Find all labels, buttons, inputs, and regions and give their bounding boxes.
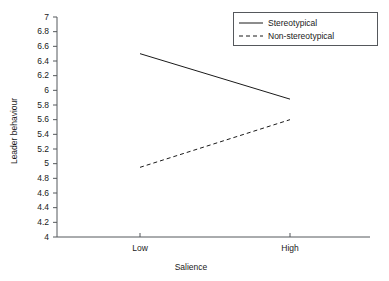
y-tick-label: 4.6 (0, 189, 49, 198)
tick-marks (53, 17, 290, 237)
y-tick-label: 6.2 (0, 71, 49, 80)
y-tick-label: 4.2 (0, 218, 49, 227)
x-axis-title: Salience (56, 262, 326, 272)
legend-label-non-stereotypical: Non-stereotypical (265, 31, 334, 41)
legend-item-non-stereotypical: Non-stereotypical (237, 29, 373, 42)
series-line-stereotypical (140, 54, 290, 99)
legend: Stereotypical Non-stereotypical (233, 12, 378, 46)
y-tick-label: 6.4 (0, 57, 49, 66)
y-tick-label: 5.2 (0, 145, 49, 154)
y-tick-label: 5 (0, 159, 49, 168)
y-axis-title: Leader behaviour (9, 76, 19, 186)
legend-dashed-line-icon (237, 31, 265, 41)
y-tick-label: 5.8 (0, 101, 49, 110)
line-chart: 76.86.66.46.265.85.65.45.254.84.64.44.24… (0, 0, 389, 281)
y-tick-label: 6 (0, 86, 49, 95)
x-tick-label: Low (100, 244, 180, 253)
series-line-non-stereotypical (140, 120, 290, 168)
y-tick-label: 4.4 (0, 203, 49, 212)
y-tick-label: 7 (0, 13, 49, 22)
axis-lines (57, 17, 370, 237)
legend-solid-line-icon (237, 18, 265, 28)
legend-label-stereotypical: Stereotypical (265, 18, 317, 28)
y-tick-label: 5.4 (0, 130, 49, 139)
data-series (140, 54, 290, 168)
y-tick-label: 6.6 (0, 42, 49, 51)
y-tick-label: 6.8 (0, 27, 49, 36)
y-tick-label: 4.8 (0, 174, 49, 183)
x-tick-label: High (250, 244, 330, 253)
legend-item-stereotypical: Stereotypical (237, 16, 373, 29)
y-tick-label: 5.6 (0, 115, 49, 124)
y-tick-label: 4 (0, 233, 49, 242)
